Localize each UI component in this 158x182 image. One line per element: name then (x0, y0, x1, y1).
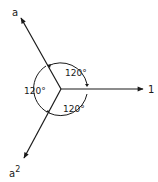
angle-label-top: 120° (65, 68, 87, 78)
phasor-a-line (21, 18, 61, 89)
arc-arrow-1 (85, 84, 89, 87)
angle-label-left: 120° (24, 86, 46, 96)
diagram-svg: a a2 1 120° 120° 120° (0, 0, 158, 182)
label-1: 1 (148, 84, 154, 95)
phasor-diagram: a a2 1 120° 120° 120° (0, 0, 158, 182)
label-a2: a2 (9, 165, 20, 179)
angle-label-bottom: 120° (63, 104, 85, 114)
phasor-a2-line (24, 89, 61, 158)
label-a: a (12, 7, 18, 18)
superscript-2: 2 (15, 165, 20, 174)
